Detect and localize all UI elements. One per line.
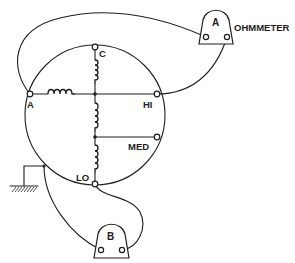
ground-lead (24, 166, 44, 186)
terminal-hi (154, 91, 160, 97)
ohmmeter-a-label: A (212, 17, 219, 28)
terminal-a (27, 91, 33, 97)
terminal-lo (92, 181, 98, 187)
wire-ground-to-ohmmeter-b (44, 166, 101, 250)
coil-speed-winding-middle (95, 103, 98, 131)
coil-start-winding-upper (95, 60, 98, 84)
ohmmeter-b: B (94, 224, 129, 258)
motor-housing-circle (25, 45, 165, 185)
wire-terminal-hi-to-ohmmeter (157, 37, 227, 94)
motor-ohmmeter-test-diagram: A C HI MED LO A OHMMETER B (0, 0, 295, 263)
wire-ohmmeter-to-terminal-a (18, 13, 206, 94)
label-terminal-c: C (99, 48, 106, 59)
ohmmeter-b-terminal-right (119, 247, 124, 252)
label-terminal-lo: LO (76, 172, 89, 183)
ohmmeter-b-label: B (107, 231, 114, 242)
junction-upper (93, 92, 97, 96)
label-terminal-hi: HI (143, 99, 153, 110)
label-terminal-med: MED (128, 141, 149, 152)
ohmmeter-b-terminal-left (98, 247, 103, 252)
coil-run-winding-horizontal (48, 90, 75, 95)
ohmmeter-a-terminal-right (224, 34, 229, 39)
junction-med (93, 135, 97, 139)
coil-speed-winding-lower (95, 145, 98, 173)
label-terminal-a: A (27, 99, 34, 110)
ground-hatch-icon (12, 187, 37, 192)
terminal-c (92, 44, 98, 50)
ohmmeter-a: A (199, 10, 233, 44)
ohmmeter-title: OHMMETER (234, 22, 290, 33)
ohmmeter-a-terminal-left (203, 34, 208, 39)
terminal-med (154, 134, 160, 140)
